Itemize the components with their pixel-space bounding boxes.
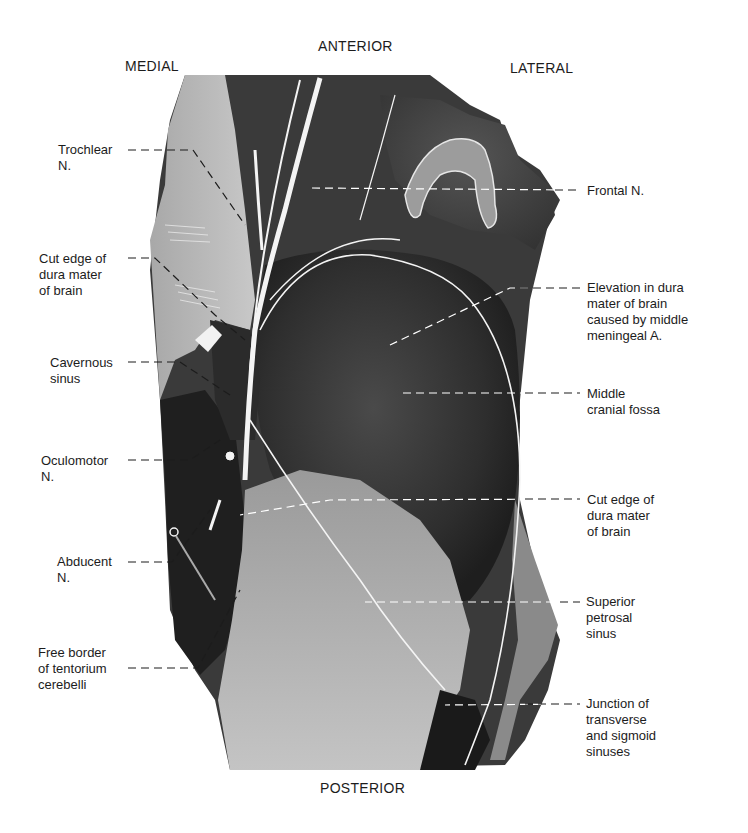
orientation-anterior: ANTERIOR: [318, 38, 393, 54]
label-elevation-dura: Elevation in dura mater of brain caused …: [587, 280, 688, 344]
label-cut-edge-dura-left: Cut edge of dura mater of brain: [39, 251, 106, 299]
label-trochlear-nerve: Trochlear N.: [58, 142, 112, 174]
label-cavernous-sinus: Cavernous sinus: [50, 355, 113, 387]
label-free-border-tentorium: Free border of tentorium cerebelli: [38, 645, 107, 693]
label-superior-petrosal-sinus: Superior petrosal sinus: [586, 594, 635, 642]
label-middle-cranial-fossa: Middle cranial fossa: [587, 386, 660, 418]
label-junction-sinuses: Junction of transverse and sigmoid sinus…: [586, 696, 656, 760]
label-oculomotor-nerve: Oculomotor N.: [41, 453, 108, 485]
label-abducent-nerve: Abducent N.: [57, 554, 112, 586]
orientation-posterior: POSTERIOR: [320, 780, 405, 796]
label-cut-edge-dura-right: Cut edge of dura mater of brain: [587, 492, 654, 540]
orientation-lateral: LATERAL: [510, 60, 573, 76]
label-frontal-nerve: Frontal N.: [587, 183, 644, 199]
orientation-medial: MEDIAL: [125, 58, 179, 74]
